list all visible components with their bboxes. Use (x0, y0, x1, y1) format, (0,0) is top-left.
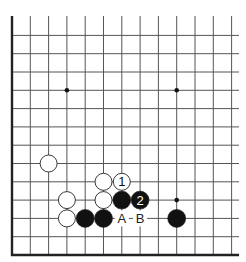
stone-disc (40, 155, 57, 172)
white-stone-1: 1 (113, 173, 130, 190)
black-stone (168, 209, 186, 227)
stone-disc (58, 192, 75, 209)
stone-disc (58, 210, 75, 227)
move-number: 2 (136, 193, 143, 208)
white-stone (40, 155, 57, 172)
white-stone (58, 210, 75, 227)
stones: 12 (40, 155, 186, 227)
stone-disc (95, 209, 113, 227)
stone-disc (95, 192, 112, 209)
black-stone (95, 209, 113, 227)
star-point (65, 88, 70, 93)
black-stone (113, 191, 131, 209)
white-stone (95, 192, 112, 209)
point-label-a: A (117, 211, 126, 226)
stone-disc (113, 191, 131, 209)
star-point (174, 88, 179, 93)
white-stone (58, 192, 75, 209)
move-number: 1 (118, 174, 125, 189)
stone-disc (168, 209, 186, 227)
white-stone (95, 173, 112, 190)
stone-disc (95, 173, 112, 190)
star-point (174, 198, 179, 203)
black-stone-2: 2 (131, 191, 149, 209)
stone-disc (76, 209, 94, 227)
point-label-b: B (136, 211, 145, 226)
go-board: AB 12 (0, 0, 246, 262)
black-stone (76, 209, 94, 227)
